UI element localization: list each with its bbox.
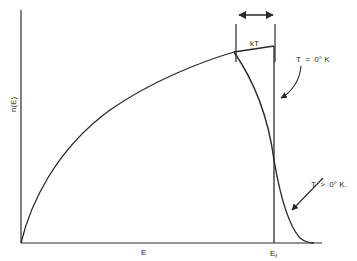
x-axis-label: E <box>141 248 146 257</box>
kt-label: kT <box>250 39 259 48</box>
density-curve-t-zero <box>21 46 274 243</box>
t-positive-label: T > 0° K. <box>311 180 347 189</box>
arrow-t-zero-icon <box>281 66 301 98</box>
fermi-energy-label-sub: f <box>275 253 277 259</box>
t-zero-label: T = 0° K <box>296 55 330 64</box>
y-axis-label: n(E) <box>9 97 18 112</box>
fermi-distribution-diagram: kT T = 0° K T > 0° K. E Ef n(E) <box>0 0 357 261</box>
fermi-energy-label: Ef <box>270 249 277 259</box>
